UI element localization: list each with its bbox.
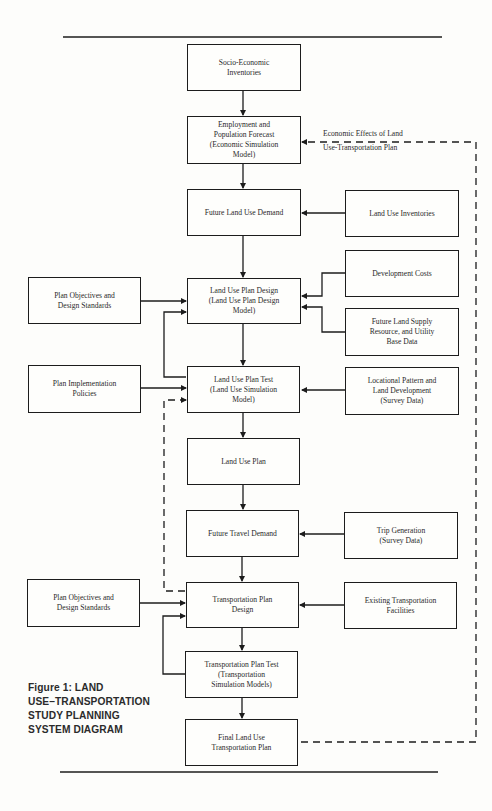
loop-ttest-to-tdesign: [163, 616, 185, 674]
box-transportation-plan-design: Transportation Plan Design: [186, 582, 299, 628]
box-development-costs: Development Costs: [345, 250, 459, 297]
box-socio-economic-inventories: Socio-Economic Inventories: [187, 44, 301, 91]
box-final-land-use-transportation-plan: Final Land Use Transportation Plan: [185, 719, 298, 766]
box-land-use-plan-design: Land Use Plan Design (Land Use Plan Desi…: [187, 278, 301, 324]
box-employment-population-forecast: Employment and Population Forecast (Econ…: [187, 116, 301, 164]
box-future-travel-demand: Future Travel Demand: [186, 510, 299, 557]
loop-test-to-design: [164, 312, 186, 377]
box-future-land-use-demand: Future Land Use Demand: [187, 189, 301, 236]
box-future-land-supply: Future Land Supply Resource, and Utility…: [345, 308, 459, 356]
box-land-use-plan-test: Land Use Plan Test (Land Use Simulation …: [187, 366, 300, 413]
dashed-loop-tdesign-to-test: [164, 400, 186, 591]
arrow-future-land-supply: [302, 307, 345, 332]
box-existing-transportation-facilities: Existing Transportation Facilities: [344, 582, 457, 629]
box-locational-pattern: Locational Pattern and Land Development …: [345, 367, 459, 415]
figure-caption: Figure 1: LAND USE–TRANSPORTATION STUDY …: [28, 681, 150, 737]
box-plan-implementation-policies: Plan Implementation Policies: [28, 365, 141, 413]
box-land-use-inventories: Land Use Inventories: [345, 190, 459, 237]
feedback-label-line2: Use-Transportation Plan: [323, 143, 397, 152]
box-transportation-plan-test: Transportation Plan Test (Transportation…: [185, 651, 298, 698]
box-plan-objectives-design-standards-2: Plan Objectives and Design Standards: [27, 579, 140, 627]
box-plan-objectives-design-standards-1: Plan Objectives and Design Standards: [28, 277, 141, 324]
box-trip-generation: Trip Generation (Survey Data): [344, 512, 458, 559]
box-land-use-plan: Land Use Plan: [187, 438, 300, 485]
arrow-development-costs: [302, 273, 345, 296]
planning-system-diagram: Socio-Economic Inventories Employment an…: [0, 0, 492, 811]
feedback-label-line1: Economic Effects of Land: [323, 129, 403, 138]
